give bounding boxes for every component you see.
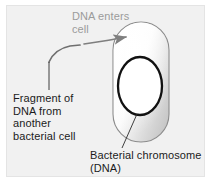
label-dna-enters-cell: DNA enters cell	[72, 10, 129, 35]
dna-fragment-curve	[49, 45, 80, 62]
label-dna-fragment: Fragment of DNA from another bacterial c…	[13, 92, 76, 142]
bacterial-transformation-figure: DNA enters cell Fragment of DNA from ano…	[0, 0, 211, 183]
bacterial-chromosome	[118, 57, 162, 115]
label-bacterial-chromosome: Bacterial chromosome (DNA)	[90, 149, 201, 174]
